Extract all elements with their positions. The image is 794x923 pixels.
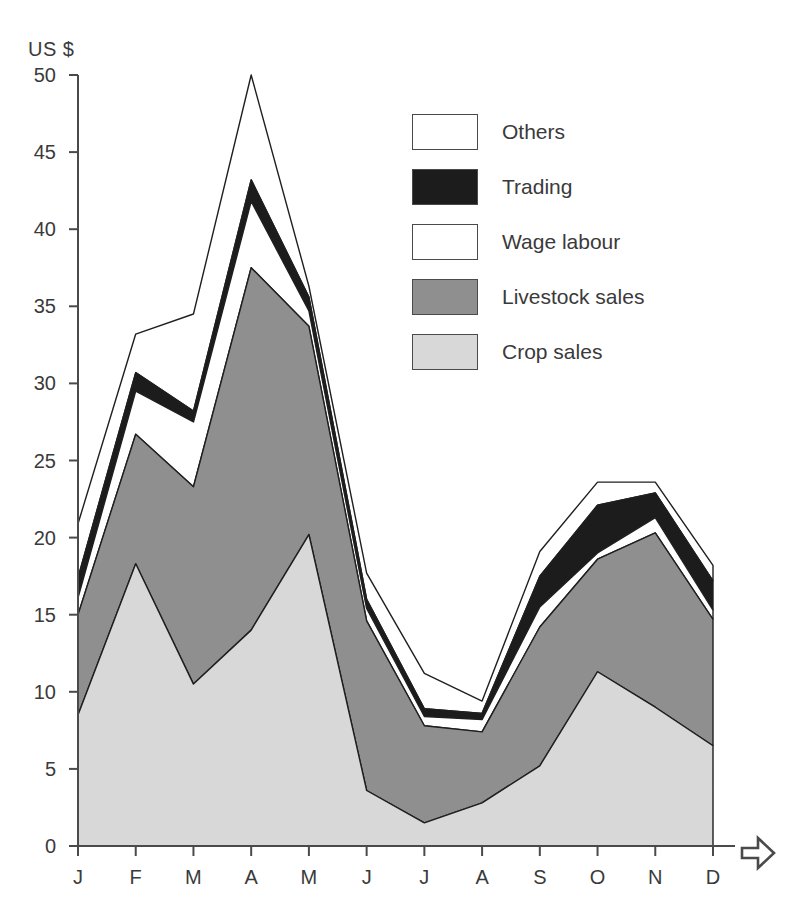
legend-swatch-icon (412, 279, 478, 315)
legend-item-others: Others (412, 104, 644, 159)
legend-item-livestock-sales: Livestock sales (412, 269, 644, 324)
x-axis-tick-label-june: J (350, 866, 384, 889)
y-axis-tick-label: 5 (10, 757, 56, 780)
legend-item-trading: Trading (412, 159, 644, 214)
x-axis-tick-label-july: J (407, 866, 441, 889)
y-axis-tick-label: 30 (10, 372, 56, 395)
y-axis-tick-label: 15 (10, 603, 56, 626)
legend-swatch-icon (412, 334, 478, 370)
legend-swatch-icon (412, 169, 478, 205)
legend-label: Livestock sales (502, 285, 644, 309)
x-axis-tick-label-march: M (176, 866, 210, 889)
x-axis-tick-label-may: M (292, 866, 326, 889)
legend-label: Trading (502, 175, 572, 199)
x-axis-tick-label-november: N (638, 866, 672, 889)
x-axis-tick-label-april: A (234, 866, 268, 889)
x-axis-tick-label-december: D (696, 866, 730, 889)
y-axis-tick-label: 40 (10, 218, 56, 241)
x-axis-tick-label-august: A (465, 866, 499, 889)
y-axis-tick-label: 10 (10, 680, 56, 703)
y-axis-tick-label: 20 (10, 526, 56, 549)
y-axis-tick-label: 35 (10, 295, 56, 318)
y-axis-tick-label: 25 (10, 449, 56, 472)
x-axis-tick-label-september: S (523, 866, 557, 889)
legend-swatch-icon (412, 114, 478, 150)
legend-label: Others (502, 120, 565, 144)
y-axis-tick-label: 0 (10, 835, 56, 858)
chart-plot-area (0, 0, 794, 923)
y-axis-tick-label: 45 (10, 141, 56, 164)
legend-item-crop-sales: Crop sales (412, 324, 644, 379)
chart-legend: OthersTradingWage labourLivestock salesC… (412, 104, 644, 379)
x-axis-tick-label-january: J (61, 866, 95, 889)
y-axis-tick-label: 50 (10, 64, 56, 87)
legend-swatch-icon (412, 224, 478, 260)
stacked-area-chart: US $ 05101520253035404550 JFMAMJJASOND O… (0, 0, 794, 923)
legend-item-wage-labour: Wage labour (412, 214, 644, 269)
legend-label: Wage labour (502, 230, 620, 254)
x-axis-arrow-icon (742, 838, 774, 868)
x-axis-tick-label-february: F (119, 866, 153, 889)
x-axis-tick-label-october: O (581, 866, 615, 889)
legend-label: Crop sales (502, 340, 602, 364)
